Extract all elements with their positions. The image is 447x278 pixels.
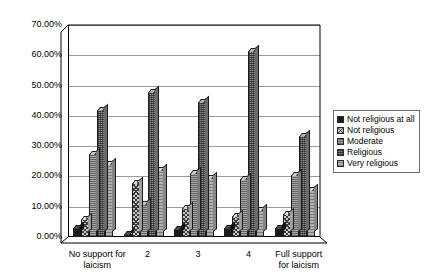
x-axis-tick-label-line: laicism: [57, 260, 137, 271]
legend-item-label: Moderate: [347, 137, 383, 146]
bar-side-face: [147, 197, 151, 232]
legend-item: Moderate: [337, 136, 415, 147]
bar-side-face: [247, 173, 251, 232]
bar-chart: 70.00%60.00%50.00%40.00%30.00%20.00%10.0…: [0, 0, 447, 278]
bar-side-face: [213, 172, 217, 232]
bar-side-face: [197, 167, 201, 232]
legend-item: Not religious at all: [337, 114, 415, 125]
legend-item-label: Not religious at all: [347, 115, 415, 124]
bar-side-face: [255, 44, 259, 232]
bar-side-face: [314, 184, 318, 232]
legend-item-label: Not religious: [347, 126, 394, 135]
x-axis-tick-label-line: Full support: [259, 249, 339, 260]
legend-item-label: Religious: [347, 148, 382, 157]
bar-group: [224, 25, 264, 237]
x-axis-tick-label: Full supportfor laicism: [259, 249, 339, 271]
legend-item: Very religious: [337, 158, 415, 169]
legend-swatch-icon: [337, 116, 344, 123]
legend-item: Not religious: [337, 125, 415, 136]
legend-swatch-icon: [337, 149, 344, 156]
legend-swatch-icon: [337, 138, 344, 145]
legend-swatch-icon: [337, 160, 344, 167]
bar: [275, 228, 283, 237]
bar-side-face: [112, 158, 116, 232]
bar-group: [124, 25, 164, 237]
bar-side-face: [139, 176, 143, 232]
legend-swatch-icon: [337, 127, 344, 134]
bar-side-face: [155, 85, 159, 232]
bar-side-face: [298, 169, 302, 232]
bar-group: [73, 25, 113, 237]
bar-side-face: [205, 96, 209, 232]
bar-group: [275, 25, 315, 237]
x-axis-tick-label-line: for laicism: [259, 260, 339, 271]
bar-group: [174, 25, 214, 237]
bar-side-face: [189, 202, 193, 232]
bar: [73, 228, 81, 237]
bar-side-face: [290, 208, 294, 232]
legend-item: Religious: [337, 147, 415, 158]
bar-side-face: [88, 212, 92, 232]
bar: [124, 234, 132, 237]
legend-item-label: Very religious: [347, 159, 398, 168]
bar-side-face: [96, 147, 100, 232]
chart-legend: Not religious at allNot religiousModerat…: [333, 110, 420, 173]
bar-side-face: [104, 103, 108, 232]
bar-side-face: [306, 129, 310, 232]
bar-side-face: [263, 203, 267, 232]
x-axis: No support forlaicism234Full supportfor …: [0, 243, 447, 278]
bar: [174, 229, 182, 237]
bar: [224, 228, 232, 237]
bar-side-face: [239, 209, 243, 232]
bar-side-face: [163, 164, 167, 232]
